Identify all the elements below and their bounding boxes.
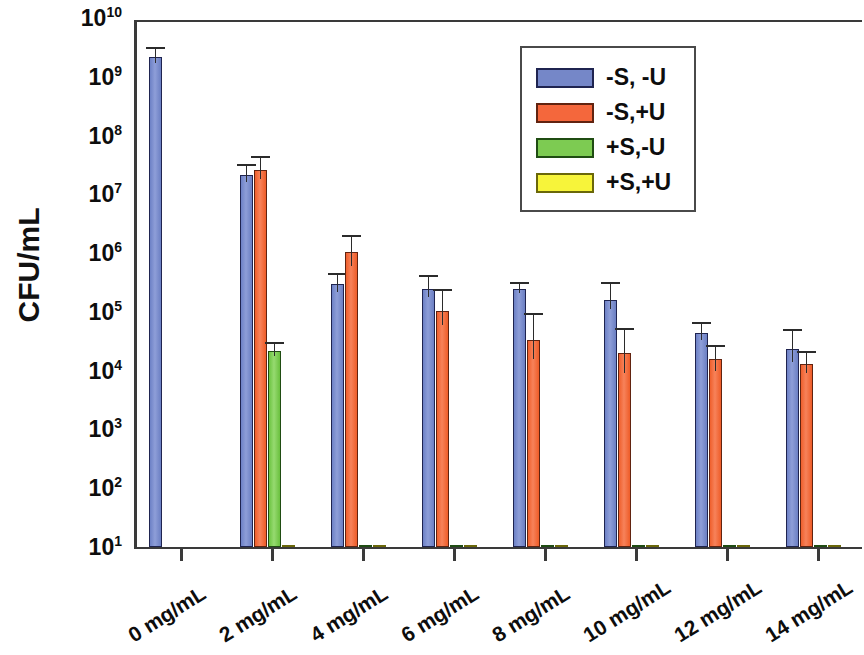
- legend-swatch-green: [536, 138, 594, 158]
- y-tick-label: 105: [40, 299, 122, 324]
- bar-group: [228, 20, 319, 547]
- error-bar: [610, 284, 611, 310]
- bar: [527, 340, 540, 547]
- plot-area: [134, 20, 862, 549]
- error-bar-cap: [419, 275, 438, 277]
- bar: [541, 545, 554, 547]
- error-bar: [442, 291, 443, 325]
- bar: [268, 351, 281, 547]
- y-tick-label: 108: [40, 123, 122, 148]
- error-bar-cap: [783, 329, 802, 331]
- bar-group: [319, 20, 410, 547]
- bar: [709, 359, 722, 547]
- error-bar: [351, 237, 352, 266]
- bar: [359, 545, 372, 547]
- bar: [331, 284, 344, 547]
- y-tick-label: 104: [40, 358, 122, 383]
- bar: [422, 289, 435, 548]
- x-tick-mark: [635, 549, 638, 561]
- bar: [282, 545, 295, 547]
- bar-group: [410, 20, 501, 547]
- error-bar-cap: [342, 235, 361, 237]
- bar: [800, 364, 813, 547]
- bar: [828, 545, 841, 547]
- bar: [555, 545, 568, 547]
- x-tick-mark: [726, 549, 729, 561]
- error-bar: [792, 331, 793, 362]
- error-bar: [337, 275, 338, 292]
- y-tick-label: 102: [40, 475, 122, 500]
- legend-item[interactable]: -S,+U: [536, 95, 694, 130]
- legend-label: +S,+U: [606, 169, 671, 196]
- chart-legend: -S, -U-S,+U+S,-U+S,+U: [520, 46, 696, 212]
- bar: [737, 545, 750, 547]
- error-bar: [624, 330, 625, 374]
- legend-label: -S, -U: [606, 64, 666, 91]
- x-tick-mark: [180, 549, 183, 561]
- bar: [240, 175, 253, 547]
- bar: [450, 545, 463, 547]
- x-tick-mark: [271, 549, 274, 561]
- legend-item[interactable]: +S,-U: [536, 130, 694, 165]
- legend-label: +S,-U: [606, 134, 665, 161]
- y-tick-label: 103: [40, 416, 122, 441]
- bar: [646, 545, 659, 547]
- bar: [373, 545, 386, 547]
- bar: [814, 545, 827, 547]
- error-bar: [715, 347, 716, 370]
- y-tick-label: 109: [40, 64, 122, 89]
- legend-swatch-yellow: [536, 173, 594, 193]
- bar-group: [683, 20, 774, 547]
- bar: [254, 170, 267, 547]
- error-bar-cap: [692, 322, 711, 324]
- x-tick-mark: [362, 549, 365, 561]
- error-bar-cap: [706, 345, 725, 347]
- error-bar: [246, 166, 247, 182]
- legend-label: -S,+U: [606, 99, 665, 126]
- legend-item[interactable]: -S, -U: [536, 60, 694, 95]
- error-bar: [806, 353, 807, 373]
- error-bar-cap: [251, 156, 270, 158]
- error-bar-cap: [146, 47, 165, 49]
- bar: [632, 545, 645, 547]
- bar: [464, 545, 477, 547]
- error-bar: [155, 49, 156, 63]
- y-tick-label: 106: [40, 240, 122, 265]
- error-bar-cap: [433, 289, 452, 291]
- bar-group: [137, 20, 228, 547]
- bar: [695, 333, 708, 547]
- y-tick-label: 107: [40, 181, 122, 206]
- chart-figure: CFU/mL 1010109108107106105104103102101 0…: [0, 0, 864, 655]
- y-tick-label: 1010: [40, 5, 122, 30]
- error-bar-cap: [265, 342, 284, 344]
- x-tick-mark: [453, 549, 456, 561]
- error-bar: [519, 284, 520, 293]
- bar: [723, 545, 736, 547]
- error-bar: [260, 158, 261, 180]
- error-bar: [701, 324, 702, 341]
- bar: [618, 353, 631, 547]
- bar: [604, 300, 617, 547]
- legend-swatch-blue: [536, 68, 594, 88]
- bar: [513, 289, 526, 548]
- legend-swatch-orange: [536, 103, 594, 123]
- legend-item[interactable]: +S,+U: [536, 165, 694, 200]
- error-bar-cap: [524, 313, 543, 315]
- error-bar-cap: [601, 282, 620, 284]
- bar: [436, 311, 449, 547]
- bar: [149, 57, 162, 547]
- error-bar-cap: [510, 282, 529, 284]
- bar: [786, 349, 799, 547]
- error-bar-cap: [237, 164, 256, 166]
- x-tick-mark: [817, 549, 820, 561]
- error-bar: [533, 315, 534, 359]
- error-bar-cap: [797, 351, 816, 353]
- error-bar-cap: [615, 328, 634, 330]
- error-bar: [428, 277, 429, 297]
- error-bar: [274, 344, 275, 355]
- bar: [345, 252, 358, 547]
- x-tick-mark: [544, 549, 547, 561]
- y-tick-label: 101: [40, 534, 122, 559]
- bar-group: [774, 20, 864, 547]
